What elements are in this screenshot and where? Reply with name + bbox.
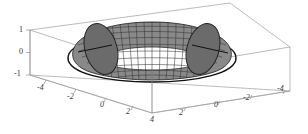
z-tick-label-1: 1 xyxy=(19,26,23,34)
y-tick-label-neg2: -2 xyxy=(243,94,250,102)
x-axis-ticks xyxy=(44,80,133,110)
y-tick-label-4: 4 xyxy=(150,116,154,124)
x-tick-label-2: 2 xyxy=(126,108,130,116)
y-axis-ticks xyxy=(184,90,285,111)
plot-canvas xyxy=(0,0,308,134)
x-tick-label-neg4: -4 xyxy=(37,84,44,92)
z-axis-line xyxy=(26,30,30,75)
y-tick-label-neg4: -4 xyxy=(277,85,284,93)
z-tick-label-0: 0 xyxy=(19,48,23,56)
surface-plot-figure: 1 0 -1 -4 -2 0 2 4 2 0 -2 -4 xyxy=(0,0,308,134)
x-tick-label-neg2: -2 xyxy=(67,93,74,101)
x-tick-label-0: 0 xyxy=(100,101,104,109)
y-tick-label-2: 2 xyxy=(179,109,183,117)
z-tick-label-neg1: -1 xyxy=(14,70,21,78)
y-tick-label-0: 0 xyxy=(214,101,218,109)
